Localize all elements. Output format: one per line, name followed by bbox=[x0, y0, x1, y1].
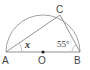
angle-arc-B bbox=[72, 45, 76, 52]
semicircle-diagram: C A O B x 55° bbox=[0, 0, 90, 70]
point-label-A: A bbox=[2, 55, 9, 66]
point-label-C: C bbox=[56, 4, 63, 15]
chord-AC bbox=[6, 15, 60, 52]
angle-label-55: 55° bbox=[57, 39, 70, 49]
angle-arc-A bbox=[19, 43, 22, 52]
angle-label-x: x bbox=[24, 39, 30, 50]
center-point-O bbox=[41, 50, 44, 53]
point-label-B: B bbox=[74, 55, 81, 66]
point-label-O: O bbox=[38, 55, 46, 66]
